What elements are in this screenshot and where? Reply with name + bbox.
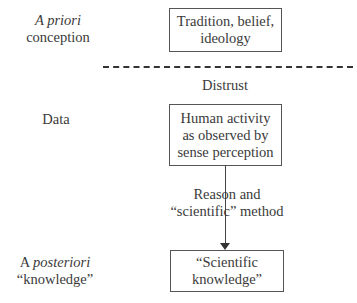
a-posteriori-label: A posteriori “knowledge” — [12, 254, 98, 288]
a-priori-label: A priori conception — [18, 12, 98, 46]
scientific-knowledge-line1: “Scientific — [192, 254, 262, 271]
human-activity-box: Human activity as observed by sense perc… — [169, 104, 282, 166]
tradition-line2: ideology — [177, 30, 274, 47]
data-label: Data — [28, 111, 84, 128]
human-activity-line1: Human activity — [177, 110, 273, 127]
tradition-line1: Tradition, belief, — [177, 13, 274, 30]
a-posteriori-subtitle: “knowledge” — [12, 271, 98, 288]
a-priori-title: A priori — [18, 12, 98, 29]
dashed-separator — [103, 66, 353, 68]
arrow-label-line1: Reason and — [160, 186, 294, 203]
human-activity-line2: as observed by — [177, 127, 273, 144]
a-posteriori-title: A posteriori — [12, 254, 98, 271]
tradition-box: Tradition, belief, ideology — [169, 8, 282, 52]
a-posteriori-prefix: A — [20, 254, 33, 270]
a-posteriori-italic: posteriori — [33, 254, 90, 270]
scientific-knowledge-line2: knowledge” — [192, 271, 262, 288]
arrow-label-line2: “scientific” method — [160, 203, 294, 220]
arrow-label: Reason and “scientific” method — [160, 186, 294, 220]
arrow-head-icon — [220, 243, 230, 250]
distrust-label: Distrust — [180, 77, 270, 94]
human-activity-line3: sense perception — [177, 144, 273, 161]
a-priori-italic: A priori — [35, 12, 81, 28]
scientific-knowledge-box: “Scientific knowledge” — [170, 250, 284, 292]
a-priori-subtitle: conception — [18, 29, 98, 46]
